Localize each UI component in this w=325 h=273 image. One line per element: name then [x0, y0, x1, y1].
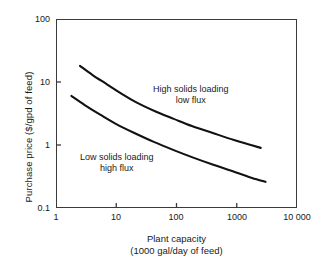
y-axis-title: Purchase price ($/gpd of feed) — [23, 47, 34, 227]
annotation-low-line1: Low solids loading — [80, 152, 154, 163]
y-tick-label-100: 100 — [6, 14, 50, 24]
annotation-low-line2: high flux — [80, 163, 154, 174]
x-axis-title-line1: Plant capacity — [56, 233, 297, 245]
x-axis-title-line2: (1000 gal/day of feed) — [56, 245, 297, 257]
annotation-high-solids: High solids loading low flux — [153, 84, 229, 106]
x-tick-label-10: 10 — [111, 212, 121, 222]
annotation-low-solids: Low solids loading high flux — [80, 152, 154, 174]
x-tick-label-1: 1 — [53, 212, 58, 222]
annotation-high-line2: low flux — [153, 95, 229, 106]
x-tick-label-1000: 1000 — [227, 212, 247, 222]
y-axis-title-wrapper: Purchase price ($/gpd of feed) — [23, 47, 34, 227]
curve-high-solids-low-flux — [80, 66, 261, 148]
annotation-high-line1: High solids loading — [153, 84, 229, 95]
x-axis-title-wrapper: Plant capacity (1000 gal/day of feed) — [56, 233, 297, 257]
x-tick-label-10000: 10 000 — [283, 212, 311, 222]
chart-figure: 100 10 1 0.1 1 10 100 1000 10 000 Purcha… — [0, 0, 325, 273]
x-tick-label-100: 100 — [168, 212, 183, 222]
